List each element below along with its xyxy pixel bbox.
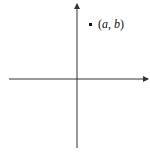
point-marker (89, 23, 92, 26)
coordinate-plane: (a, b) (0, 0, 150, 154)
point-label: (a, b) (98, 17, 124, 31)
